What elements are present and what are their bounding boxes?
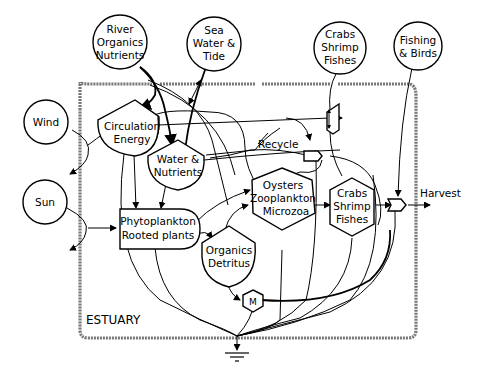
svg-text:Sun: Sun: [35, 196, 55, 208]
svg-text:Organics: Organics: [206, 244, 252, 256]
svg-text:Phytoplankton: Phytoplankton: [120, 215, 196, 227]
svg-text:& Birds: & Birds: [399, 47, 437, 59]
consumer-oysters: Oysters Zooplankton Microzoa: [250, 168, 316, 230]
storage-circulation-energy: Circulation Energy: [98, 100, 160, 156]
svg-text:Fishing: Fishing: [400, 34, 437, 46]
svg-text:Sea: Sea: [204, 24, 224, 36]
svg-text:Detritus: Detritus: [208, 257, 250, 269]
svg-text:Microzoa: Microzoa: [263, 205, 310, 217]
svg-text:Crabs: Crabs: [325, 28, 355, 40]
estuary-diagram: ESTUARY: [0, 0, 480, 382]
svg-text:Water &: Water &: [193, 37, 236, 49]
producer-phytoplankton: Phytoplankton Rooted plants: [120, 209, 200, 249]
svg-text:Nutrients: Nutrients: [96, 49, 145, 61]
estuary-label: ESTUARY: [86, 313, 141, 327]
recycle-label: Recycle: [258, 138, 298, 150]
svg-text:M: M: [249, 297, 257, 307]
svg-text:Circulation: Circulation: [104, 120, 160, 132]
harvest-label: Harvest: [420, 187, 461, 199]
heat-sink-icon: [225, 353, 249, 361]
source-fishing-birds: Fishing & Birds: [394, 22, 442, 70]
svg-text:Crabs: Crabs: [337, 187, 367, 199]
svg-text:Water &: Water &: [157, 153, 200, 165]
source-river: River Organics Nutrients: [93, 15, 147, 69]
recycle-workgate-icon: [304, 151, 322, 161]
svg-text:Fishes: Fishes: [336, 213, 368, 225]
source-wind: Wind: [24, 100, 68, 144]
exchange-switch-icon: [327, 104, 339, 134]
source-crabs-shrimp-fishes: Crabs Shrimp Fishes: [314, 22, 366, 74]
svg-text:River: River: [106, 23, 134, 35]
svg-text:Tide: Tide: [202, 50, 225, 62]
source-sun: Sun: [23, 180, 67, 224]
svg-text:Shrimp: Shrimp: [333, 200, 371, 212]
harvest-workgate-icon: [388, 199, 406, 211]
consumer-crabs-shrimp-fishes: Crabs Shrimp Fishes: [330, 178, 374, 236]
storage-water-nutrients: Water & Nutrients: [148, 140, 204, 190]
svg-text:Shrimp: Shrimp: [321, 41, 359, 53]
svg-text:Nutrients: Nutrients: [154, 166, 203, 178]
svg-text:Rooted plants: Rooted plants: [122, 229, 195, 241]
svg-text:Zooplankton: Zooplankton: [250, 192, 316, 204]
svg-text:Fishes: Fishes: [324, 54, 356, 66]
svg-text:Oysters: Oysters: [263, 179, 303, 191]
svg-text:Wind: Wind: [33, 116, 59, 128]
consumer-microbes: M: [243, 290, 263, 312]
svg-text:Energy: Energy: [114, 133, 151, 145]
source-sea-tide: Sea Water & Tide: [187, 17, 241, 71]
svg-text:Organics: Organics: [97, 36, 143, 48]
